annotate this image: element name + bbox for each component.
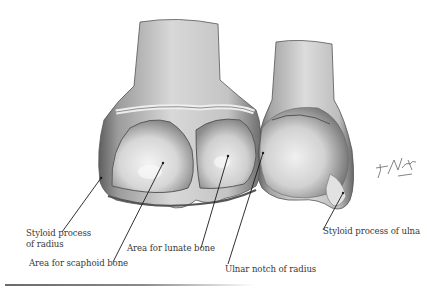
label-line: Area for scaphoid bone bbox=[29, 258, 128, 269]
label-line: Styloid process bbox=[26, 228, 91, 239]
label-styloid-process-of-radius: Styloid process of radius bbox=[26, 228, 91, 250]
radius bbox=[99, 19, 261, 208]
label-line: Styloid process of ulna bbox=[323, 226, 420, 237]
bottom-rule bbox=[5, 284, 255, 286]
label-ulnar-notch-of-radius: Ulnar notch of radius bbox=[225, 264, 316, 275]
label-area-for-scaphoid-bone: Area for scaphoid bone bbox=[29, 258, 128, 269]
label-styloid-process-of-ulna: Styloid process of ulna bbox=[323, 226, 420, 237]
label-area-for-lunate-bone: Area for lunate bone bbox=[127, 243, 215, 254]
label-line: of radius bbox=[26, 239, 91, 250]
ulna bbox=[256, 40, 354, 209]
leader-styloid-radius bbox=[62, 178, 101, 232]
artist-signature bbox=[376, 158, 416, 178]
label-line: Ulnar notch of radius bbox=[225, 264, 316, 275]
label-line: Area for lunate bone bbox=[127, 243, 215, 254]
